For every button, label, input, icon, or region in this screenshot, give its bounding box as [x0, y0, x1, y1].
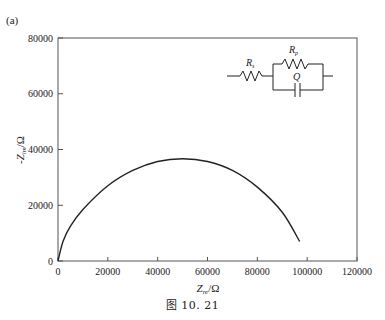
y-tick-label: 80000 [28, 33, 53, 44]
x-tick-label: 100000 [292, 266, 322, 277]
figure-caption: 图 10. 21 [0, 296, 385, 312]
x-tick-label: 80000 [245, 266, 270, 277]
x-tick-label: 20000 [95, 266, 120, 277]
x-tick-label: 40000 [145, 266, 170, 277]
y-tick-label: 40000 [28, 144, 53, 155]
x-tick-label: 60000 [195, 266, 220, 277]
label-rs: Rs [245, 57, 255, 69]
nyquist-chart: 020000400006000080000100000120000 020000… [0, 0, 385, 300]
x-axis-ticks: 020000400006000080000100000120000 [56, 257, 373, 277]
y-axis-label: -Zim/Ω [14, 136, 28, 164]
label-q: Q [293, 71, 301, 82]
y-tick-label: 60000 [28, 88, 53, 99]
x-axis-label: Zre/Ω [197, 282, 220, 296]
resistor-rs-icon [240, 71, 262, 81]
series-line [58, 159, 300, 261]
x-tick-label: 120000 [342, 266, 372, 277]
label-rp: Rp [288, 44, 298, 56]
y-tick-label: 20000 [28, 200, 53, 211]
plot-frame [58, 38, 357, 261]
equivalent-circuit-diagram: Rs Rp Q [227, 44, 333, 97]
resistor-rp-icon [282, 59, 308, 69]
x-tick-label: 0 [56, 266, 61, 277]
y-tick-label: 0 [48, 256, 53, 267]
impedance-curve [58, 159, 300, 261]
